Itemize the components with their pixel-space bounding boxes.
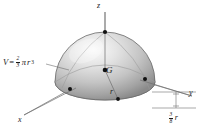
base-point — [116, 97, 120, 101]
x-axis-outer — [24, 88, 76, 115]
centroid-fraction-denominator: 8 — [169, 118, 174, 125]
x-axis-label: x — [18, 116, 22, 124]
volume-variable: V — [3, 58, 8, 67]
volume-fraction: 2 3 — [16, 56, 21, 69]
volume-exponent: 3 — [31, 60, 34, 66]
volume-equals: = — [9, 58, 14, 67]
radius-label: r — [110, 88, 113, 96]
pi-symbol: π — [22, 58, 26, 67]
y-axis-label: y — [189, 89, 193, 97]
volume-fraction-denominator: 3 — [16, 62, 21, 69]
apex-point — [103, 30, 107, 34]
z-axis-label: z — [97, 2, 100, 10]
hemisphere-diagram: z y x G r V = 2 3 π r 3 3 8 r — [0, 0, 202, 134]
volume-radius-symbol: r — [27, 58, 30, 67]
centroid-dimension-label: 3 8 r — [168, 112, 178, 125]
y-axis-pierce-point — [143, 77, 147, 81]
volume-formula: V = 2 3 π r 3 — [3, 56, 34, 69]
centroid-radius-symbol: r — [175, 114, 178, 122]
x-axis-pierce-point — [68, 87, 72, 91]
centroid-fraction: 3 8 — [169, 112, 174, 125]
centroid-label: G — [106, 66, 113, 75]
